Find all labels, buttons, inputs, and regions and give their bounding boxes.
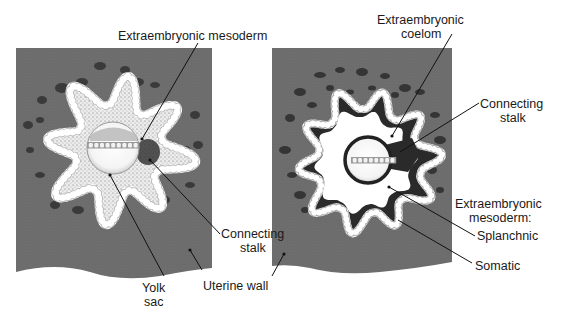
disc-cell xyxy=(117,143,121,148)
disc-cell xyxy=(358,158,362,163)
label-extraembryonic-mesoderm-right-2: mesoderm: xyxy=(469,211,532,225)
label-extraembryonic-mesoderm-left: Extraembryonic mesoderm xyxy=(118,29,267,43)
connecting-stalk-left xyxy=(136,139,160,165)
left-panel xyxy=(16,48,212,278)
embryonic-disc-right xyxy=(351,157,396,164)
disc-cell xyxy=(134,143,138,148)
label-somatic: Somatic xyxy=(475,259,520,273)
embryonic-disc-left xyxy=(87,142,139,149)
right-panel xyxy=(272,48,452,273)
label-connecting-stalk-right-2: stalk xyxy=(500,111,526,125)
disc-cell xyxy=(353,158,357,163)
disc-cell xyxy=(369,158,373,163)
disc-cell xyxy=(391,158,395,163)
disc-cell xyxy=(100,143,104,148)
disc-cell xyxy=(364,158,368,163)
disc-cell xyxy=(385,158,389,163)
disc-cell xyxy=(111,143,115,148)
label-extraembryonic-coelom-2: coelom xyxy=(401,27,441,41)
label-extraembryonic-mesoderm-right-1: Extraembryonic xyxy=(455,197,542,211)
embryo-development-diagram: Extraembryonic mesoderm Connecting stalk… xyxy=(0,0,565,320)
label-connecting-stalk-left-2: stalk xyxy=(240,241,266,255)
label-connecting-stalk-right-1: Connecting xyxy=(480,97,543,111)
disc-cell xyxy=(94,143,98,148)
label-yolk-sac-2: sac xyxy=(144,295,163,309)
label-uterine-wall: Uterine wall xyxy=(203,279,268,293)
label-splanchnic: Splanchnic xyxy=(477,229,538,243)
disc-cell xyxy=(122,143,126,148)
disc-cell xyxy=(128,143,132,148)
label-connecting-stalk-left-1: Connecting xyxy=(221,227,284,241)
disc-cell xyxy=(380,158,384,163)
label-yolk-sac-1: Yolk xyxy=(142,281,166,295)
disc-background xyxy=(351,157,396,164)
disc-cell xyxy=(106,143,110,148)
disc-cell xyxy=(374,158,378,163)
disc-cell xyxy=(89,143,93,148)
label-extraembryonic-coelom-1: Extraembryonic xyxy=(377,13,464,27)
